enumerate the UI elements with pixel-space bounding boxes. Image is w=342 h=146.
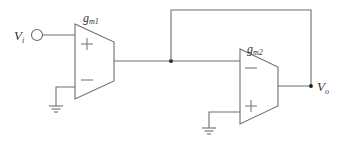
- ota2-label: gm2: [247, 42, 263, 57]
- output-node-dot: [309, 84, 313, 88]
- ground-icon: [49, 106, 63, 112]
- ota2-triangle-icon: [240, 49, 278, 124]
- ota1-ground: [49, 87, 75, 112]
- output-label: Vo: [317, 79, 329, 96]
- ota2-ground-wire: [209, 112, 240, 128]
- ground-icon: [202, 128, 216, 134]
- ota1-amplifier: gm1: [75, 11, 114, 99]
- ota1-label: gm1: [83, 11, 99, 26]
- ota1-triangle-icon: [75, 24, 114, 99]
- input-label: Vi: [14, 28, 24, 45]
- input-terminal-icon: [32, 30, 43, 41]
- ota1-ground-wire: [56, 87, 75, 106]
- ota2-ground: [202, 112, 240, 134]
- ota2-amplifier: gm2: [240, 42, 278, 124]
- circuit-diagram: Vi gm1 gm2: [0, 0, 342, 146]
- output: Vo: [278, 79, 329, 96]
- input-source: Vi: [14, 28, 75, 45]
